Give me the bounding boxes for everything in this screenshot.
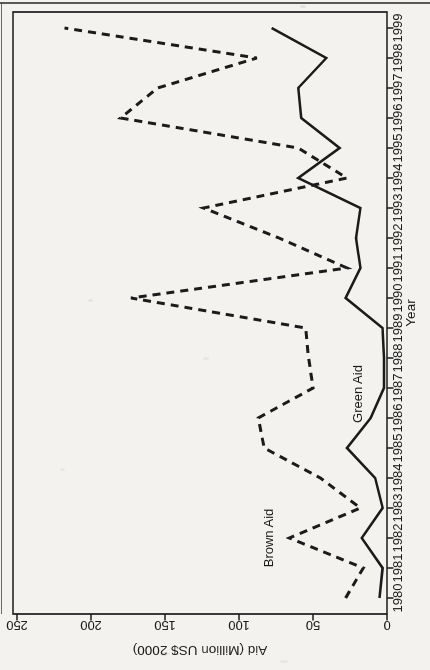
y-axis-title: Aid (Million US$ 2000) <box>133 644 267 659</box>
y-tick-label: 100 <box>228 619 250 634</box>
y-tick-label: 0 <box>383 619 390 634</box>
plot-border <box>13 12 387 614</box>
aid-line-chart: 1980198119821983198419851986198719881989… <box>0 0 430 670</box>
series-annotation: Brown Aid <box>261 509 276 568</box>
x-tick-label: 1983 <box>390 494 405 523</box>
rotated-chart-container: 1980198119821983198419851986198719881989… <box>0 0 430 670</box>
x-tick-label: 1984 <box>390 464 405 493</box>
x-tick-label: 1988 <box>390 344 405 373</box>
x-tick-label: 1994 <box>390 164 405 193</box>
x-tick-label: 1991 <box>390 254 405 283</box>
y-tick-label: 250 <box>6 619 28 634</box>
x-tick-label: 1982 <box>390 524 405 553</box>
y-tick-label: 200 <box>80 619 102 634</box>
x-tick-label: 1986 <box>390 404 405 433</box>
scanned-figure-page: 1980198119821983198419851986198719881989… <box>0 0 430 670</box>
brown-aid-line <box>64 28 363 598</box>
x-tick-label: 1987 <box>390 374 405 403</box>
green-aid-line <box>272 28 384 598</box>
x-tick-label: 1996 <box>390 104 405 133</box>
x-axis-title: Year <box>403 299 418 327</box>
x-tick-label: 1981 <box>390 554 405 583</box>
series-annotation: Green Aid <box>350 365 365 423</box>
x-tick-label: 1997 <box>390 74 405 103</box>
x-tick-label: 1992 <box>390 224 405 253</box>
x-tick-label: 1993 <box>390 194 405 223</box>
x-tick-label: 1999 <box>390 14 405 43</box>
y-tick-label: 150 <box>154 619 176 634</box>
x-tick-label: 1995 <box>390 134 405 163</box>
x-tick-label: 1985 <box>390 434 405 463</box>
y-tick-label: 50 <box>306 619 320 634</box>
x-tick-label: 1998 <box>390 44 405 73</box>
x-tick-label: 1980 <box>390 584 405 613</box>
